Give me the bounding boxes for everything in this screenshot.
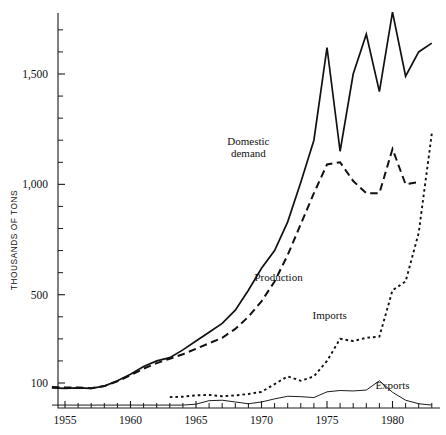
series-lines [52,12,432,405]
series-label-domestic-demand: demand [231,147,266,159]
y-axis-tick-label: 1,000 [22,178,48,191]
series-line-domestic-demand [52,12,432,388]
y-axis-title: THOUSANDS OF TONS [9,190,19,290]
tick-labels: 1005001,0001,500195519601965197019751980 [22,68,404,426]
series-label-production: Production [254,271,303,283]
series-label-domestic-demand: Domestic [227,135,269,147]
x-axis-tick-label: 1955 [54,414,77,426]
chart-container: 1005001,0001,500195519601965197019751980… [0,0,446,435]
y-axis-tick-label: 100 [31,377,49,389]
series-line-imports [170,134,432,398]
series-annotations: DomesticdemandProductionImportsExports [227,135,409,392]
y-axis-tick-label: 1,500 [22,68,48,81]
series-line-production [52,149,419,388]
x-axis-tick-label: 1975 [316,414,339,426]
line-chart-svg: 1005001,0001,500195519601965197019751980… [0,0,446,435]
series-label-exports: Exports [375,379,409,391]
x-axis-tick-label: 1980 [381,414,404,426]
x-axis-tick-label: 1970 [250,414,273,426]
y-axis-tick-label: 500 [31,289,49,301]
x-axis-tick-label: 1960 [119,414,142,426]
series-label-imports: Imports [313,309,347,321]
x-axis-tick-label: 1965 [185,414,208,426]
